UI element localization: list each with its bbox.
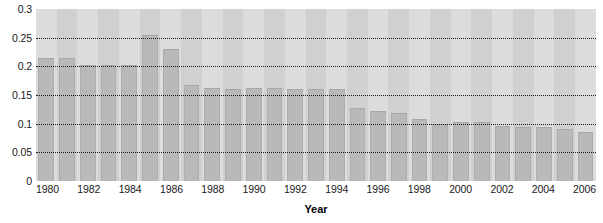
x-tick-label: 1980: [36, 183, 59, 195]
bar-slot: [534, 9, 555, 181]
x-tick-label: 1998: [408, 183, 431, 195]
bar[interactable]: [267, 88, 283, 181]
bar[interactable]: [412, 119, 428, 181]
bar[interactable]: [38, 58, 54, 181]
bar-slot: [243, 9, 264, 181]
x-tick-label: 1994: [325, 183, 348, 195]
bar[interactable]: [246, 88, 262, 181]
x-tick-slot: [555, 183, 573, 199]
bar-slot: [36, 9, 57, 181]
bar[interactable]: [578, 132, 594, 181]
bar-slot: [98, 9, 119, 181]
x-tick-slot: 1994: [325, 183, 348, 199]
bar-slot: [326, 9, 347, 181]
bar[interactable]: [287, 89, 303, 181]
bar[interactable]: [308, 89, 324, 181]
x-tick-slot: [100, 183, 118, 199]
bar-slot: [471, 9, 492, 181]
x-tick-slot: 1986: [160, 183, 183, 199]
x-tick-slot: 1998: [408, 183, 431, 199]
bar[interactable]: [515, 127, 531, 181]
bar[interactable]: [474, 122, 490, 181]
plot-area: [36, 9, 596, 181]
x-axis: 1980198219841986198819901992199419961998…: [36, 183, 596, 199]
x-tick-label: 2004: [532, 183, 555, 195]
bar[interactable]: [350, 108, 366, 181]
bar-slot: [306, 9, 327, 181]
bar[interactable]: [495, 126, 511, 181]
bar-slot: [160, 9, 181, 181]
bar-slot: [451, 9, 472, 181]
bar[interactable]: [453, 122, 469, 181]
bar-slot: [202, 9, 223, 181]
bar[interactable]: [225, 89, 241, 181]
x-tick-slot: 1982: [77, 183, 100, 199]
x-tick-slot: [183, 183, 201, 199]
x-tick-slot: 1996: [367, 183, 390, 199]
bar-slot: [347, 9, 368, 181]
x-tick-label: 1986: [160, 183, 183, 195]
x-tick-label: 2006: [573, 183, 596, 195]
x-tick-slot: 1988: [201, 183, 224, 199]
bar[interactable]: [329, 89, 345, 181]
bar-slot: [223, 9, 244, 181]
x-tick-slot: [224, 183, 242, 199]
x-tick-slot: [513, 183, 531, 199]
bar-slot: [77, 9, 98, 181]
x-tick-slot: [142, 183, 160, 199]
x-tick-label: 1996: [367, 183, 390, 195]
x-tick-label: 2000: [449, 183, 472, 195]
x-tick-label: 1984: [119, 183, 142, 195]
bar-slot: [285, 9, 306, 181]
bar[interactable]: [204, 88, 220, 181]
bar-slot: [181, 9, 202, 181]
x-tick-slot: 1984: [119, 183, 142, 199]
bar-slot: [264, 9, 285, 181]
y-tick-label: 0: [26, 175, 32, 187]
bar[interactable]: [59, 58, 75, 181]
bar[interactable]: [121, 65, 137, 181]
bar-slot: [513, 9, 534, 181]
bar-slot: [140, 9, 161, 181]
bar-slot: [409, 9, 430, 181]
x-tick-label: 1982: [77, 183, 100, 195]
x-tick-slot: 1980: [36, 183, 59, 199]
x-tick-slot: [431, 183, 449, 199]
bar[interactable]: [557, 129, 573, 181]
bar-slot: [575, 9, 596, 181]
x-tick-slot: 1990: [243, 183, 266, 199]
x-axis-title: Year: [36, 203, 596, 215]
x-tick-slot: 2000: [449, 183, 472, 199]
bar[interactable]: [370, 111, 386, 181]
y-tick-label: 0.05: [12, 146, 32, 158]
bar-slot: [492, 9, 513, 181]
x-tick-slot: [307, 183, 325, 199]
x-tick-label: 1990: [243, 183, 266, 195]
bar-slot: [368, 9, 389, 181]
x-tick-slot: 2006: [573, 183, 596, 199]
bar[interactable]: [184, 85, 200, 181]
y-tick-label: 0.15: [12, 89, 32, 101]
y-axis: 00.050.10.150.20.250.3: [0, 0, 36, 190]
bar[interactable]: [391, 113, 407, 181]
x-tick-slot: [348, 183, 366, 199]
x-tick-slot: [59, 183, 77, 199]
x-tick-label: 1988: [201, 183, 224, 195]
y-tick-label: 0.1: [18, 118, 32, 130]
bar[interactable]: [101, 65, 117, 181]
x-tick-slot: [389, 183, 407, 199]
x-tick-slot: [266, 183, 284, 199]
x-tick-slot: 2004: [532, 183, 555, 199]
bar-slot: [554, 9, 575, 181]
y-tick-label: 0.2: [18, 60, 32, 72]
bar[interactable]: [142, 35, 158, 181]
bar-slot: [57, 9, 78, 181]
bar[interactable]: [163, 49, 179, 181]
bar[interactable]: [432, 124, 448, 181]
bar[interactable]: [80, 65, 96, 181]
x-tick-slot: 1992: [284, 183, 307, 199]
y-tick-label: 0.3: [18, 3, 32, 15]
x-tick-label: 1992: [284, 183, 307, 195]
bar[interactable]: [536, 127, 552, 181]
bar-slot: [388, 9, 409, 181]
